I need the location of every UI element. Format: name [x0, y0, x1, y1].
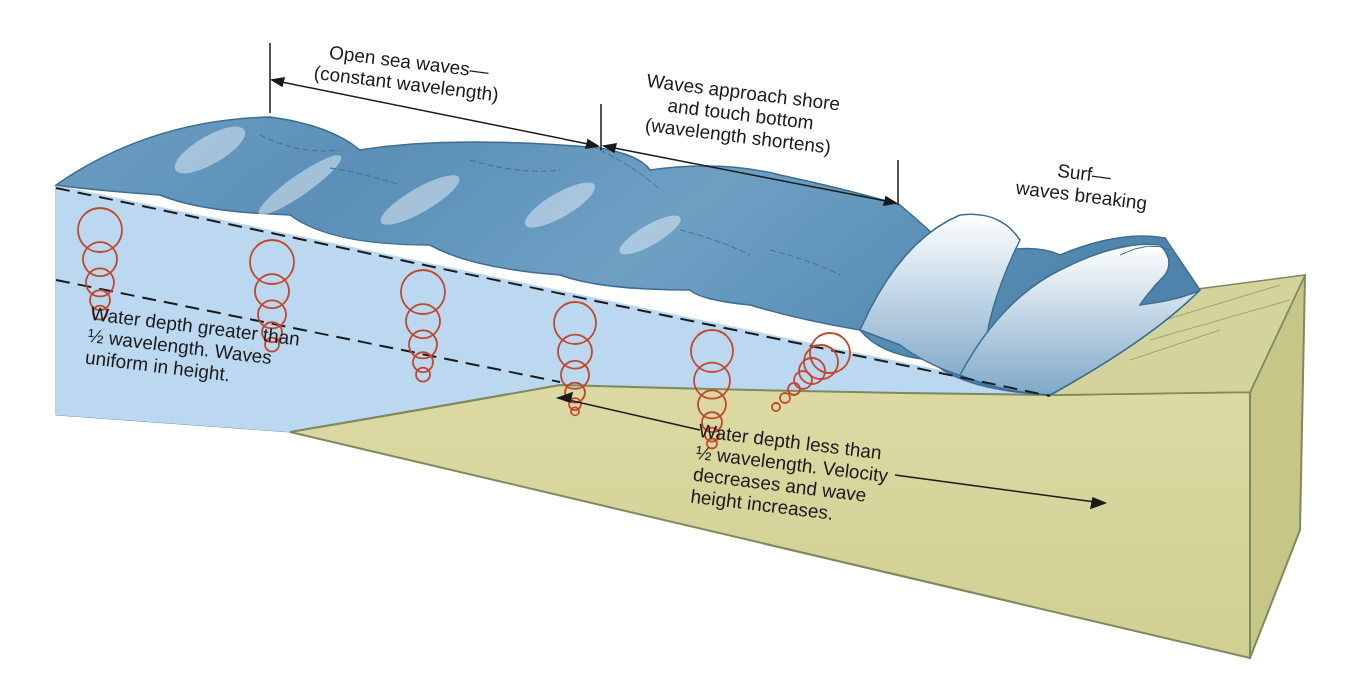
sediment-front-face — [290, 385, 1250, 658]
